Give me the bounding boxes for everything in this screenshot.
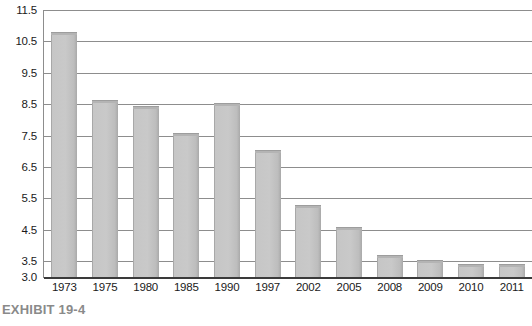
y-axis-tick-label: 11.5: [16, 4, 37, 16]
bar: [295, 205, 321, 277]
bar-slot: [491, 10, 532, 277]
bar: [417, 260, 443, 277]
gridline: 3.0: [44, 277, 532, 279]
bar-slot: [451, 10, 492, 277]
y-axis-tick-label: 3.0: [22, 271, 37, 283]
bar-slot: [166, 10, 207, 277]
bar: [92, 100, 118, 277]
y-axis-tick-label: 9.5: [22, 67, 37, 79]
y-axis-tick-label: 5.5: [22, 192, 37, 204]
bar: [377, 255, 403, 277]
bar: [336, 227, 362, 277]
x-axis-tick-label: 1975: [85, 281, 126, 293]
x-axis-tick-labels: 1973197519801985199019972002200520082009…: [44, 281, 532, 299]
y-axis-tick-label: 7.5: [22, 130, 37, 142]
y-axis-tick-label: 3.5: [22, 255, 37, 267]
x-axis-tick-label: 1997: [247, 281, 288, 293]
bar: [499, 264, 525, 277]
bar: [458, 264, 484, 277]
bar: [51, 32, 77, 277]
bar-slot: [247, 10, 288, 277]
exhibit-caption: EXHIBIT 19-4: [2, 302, 85, 317]
bar: [173, 133, 199, 277]
bar-slot: [288, 10, 329, 277]
x-axis-tick-label: 2008: [369, 281, 410, 293]
bar-slot: [329, 10, 370, 277]
bar-slot: [85, 10, 126, 277]
bar-slot: [410, 10, 451, 277]
x-axis-tick-label: 1990: [207, 281, 248, 293]
x-axis-tick-label: 2005: [329, 281, 370, 293]
bar-slot: [125, 10, 166, 277]
x-axis-tick-label: 2002: [288, 281, 329, 293]
bar: [214, 103, 240, 277]
x-axis-tick-label: 1985: [166, 281, 207, 293]
y-axis-tick-label: 4.5: [22, 224, 37, 236]
y-axis-tick-label: 8.5: [22, 98, 37, 110]
bar-slot: [369, 10, 410, 277]
x-axis-tick-label: 2010: [451, 281, 492, 293]
bar-slot: [207, 10, 248, 277]
x-axis-tick-label: 1973: [44, 281, 85, 293]
x-axis-tick-label: 2009: [410, 281, 451, 293]
bars-group: [44, 10, 532, 277]
y-axis-tick-label: 6.5: [22, 161, 37, 173]
bar: [133, 106, 159, 277]
y-axis-tick-label: 10.5: [15, 35, 37, 47]
bar: [255, 150, 281, 277]
x-axis-tick-label: 1980: [125, 281, 166, 293]
x-axis-tick-label: 2011: [491, 281, 532, 293]
bar-slot: [44, 10, 85, 277]
exhibit-figure: 11.510.59.58.57.56.55.54.53.53.0 1973197…: [0, 0, 532, 326]
